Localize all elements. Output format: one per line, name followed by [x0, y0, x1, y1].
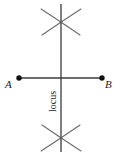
point-a-marker — [16, 75, 21, 80]
point-b-label: B — [105, 79, 112, 90]
perpendicular-bisector-figure: A B locus — [0, 0, 119, 155]
construction-drawing — [0, 0, 119, 155]
point-b-marker — [99, 75, 104, 80]
point-a-label: A — [5, 79, 12, 90]
locus-label: locus — [48, 91, 58, 112]
